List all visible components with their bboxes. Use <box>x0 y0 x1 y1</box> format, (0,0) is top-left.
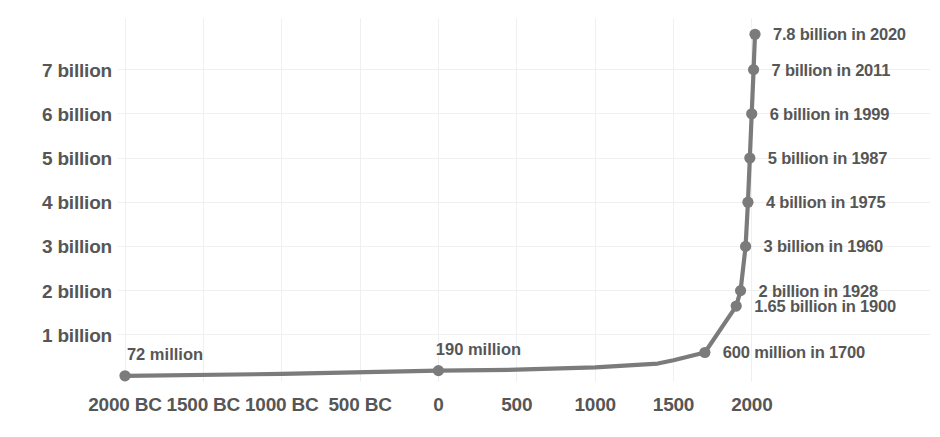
data-point-marker <box>749 29 760 40</box>
data-point-annotation: 1.65 billion in 1900 <box>754 297 896 315</box>
y-axis-tick-label: 2 billion <box>42 281 112 302</box>
data-point-marker <box>748 64 759 75</box>
data-point-annotation: 600 million in 1700 <box>723 343 865 361</box>
x-axis-tick-label: 1500 BC <box>167 394 241 415</box>
chart-svg: 1 billion2 billion3 billion4 billion5 bi… <box>0 0 940 437</box>
data-point-annotation: 2 billion in 1928 <box>759 282 878 300</box>
data-point-annotation: 5 billion in 1987 <box>768 149 887 167</box>
data-point-annotation: 72 million <box>127 345 203 363</box>
data-point-annotation: 190 million <box>436 340 521 358</box>
y-axis-tick-label: 6 billion <box>42 104 112 125</box>
data-point-marker <box>744 152 755 163</box>
x-axis-tick-label: 1000 BC <box>245 394 319 415</box>
x-axis-tick-label: 2000 <box>731 394 772 415</box>
y-axis-tick-label: 5 billion <box>42 148 112 169</box>
data-point-marker <box>699 347 710 358</box>
population-line-series <box>125 34 755 376</box>
data-point-marker <box>433 365 444 376</box>
data-point-marker <box>742 197 753 208</box>
data-point-annotation: 6 billion in 1999 <box>770 105 889 123</box>
data-point-annotation: 7 billion in 2011 <box>772 61 891 79</box>
y-axis-tick-label: 3 billion <box>42 236 112 257</box>
x-axis-tick-label: 500 <box>501 394 532 415</box>
data-point-annotation: 7.8 billion in 2020 <box>773 25 906 43</box>
data-point-markers <box>119 29 760 382</box>
x-axis-tick-labels: 2000 BC1500 BC1000 BC500 BC0500100015002… <box>88 394 772 415</box>
data-point-marker <box>740 241 751 252</box>
x-axis-tick-label: 500 BC <box>328 394 392 415</box>
x-axis-tick-label: 2000 BC <box>88 394 162 415</box>
data-point-annotation: 4 billion in 1975 <box>766 193 885 211</box>
x-axis-tick-label: 1000 <box>574 394 615 415</box>
data-point-marker <box>746 108 757 119</box>
data-point-marker <box>731 300 742 311</box>
y-axis-tick-label: 7 billion <box>42 60 112 81</box>
y-axis-tick-labels: 1 billion2 billion3 billion4 billion5 bi… <box>42 60 112 346</box>
y-axis-tick-label: 4 billion <box>42 192 112 213</box>
x-axis-tick-label: 0 <box>433 394 443 415</box>
population-growth-chart: 1 billion2 billion3 billion4 billion5 bi… <box>0 0 940 437</box>
x-axis-tick-label: 1500 <box>653 394 694 415</box>
y-axis-tick-label: 1 billion <box>42 325 112 346</box>
data-point-marker <box>119 370 130 381</box>
data-point-annotation: 3 billion in 1960 <box>764 237 883 255</box>
data-point-marker <box>735 285 746 296</box>
